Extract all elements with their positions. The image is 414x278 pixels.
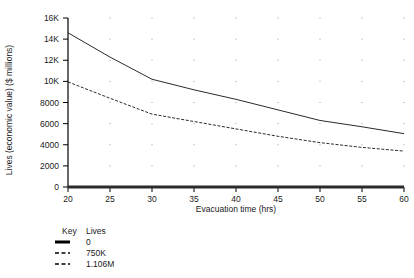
grid-dot — [194, 39, 195, 40]
grid-dot — [110, 123, 111, 124]
grid-dot — [278, 60, 279, 61]
y-tick-label: 16K — [44, 13, 59, 23]
grid-dot — [110, 39, 111, 40]
grid-dot — [362, 165, 363, 166]
x-tick-label: 30 — [147, 194, 157, 204]
x-tick-label: 20 — [63, 194, 73, 204]
grid-dot — [194, 123, 195, 124]
grid-dot — [152, 144, 153, 145]
grid-dot — [320, 144, 321, 145]
grid-dot — [194, 18, 195, 19]
grid-dot — [320, 81, 321, 82]
grid-dot — [362, 18, 363, 19]
x-tick-label: 35 — [189, 194, 199, 204]
grid-dot — [404, 18, 405, 19]
grid-dot — [362, 102, 363, 103]
grid-dot — [278, 18, 279, 19]
x-tick-label: 50 — [315, 194, 325, 204]
line-chart: Lives (economic value) ($ millions) 0200… — [0, 0, 414, 278]
grid-dot — [278, 81, 279, 82]
grid-dot — [194, 60, 195, 61]
grid-dot — [152, 18, 153, 19]
grid-dot — [320, 60, 321, 61]
grid-dot — [320, 123, 321, 124]
grid-dot — [278, 165, 279, 166]
y-tick-label: 14K — [44, 34, 59, 44]
grid-dot — [152, 81, 153, 82]
grid-dot — [236, 123, 237, 124]
grid-dot — [362, 39, 363, 40]
grid-dot — [110, 60, 111, 61]
grid-dot — [110, 18, 111, 19]
grid-dot — [362, 144, 363, 145]
grid-dot — [194, 81, 195, 82]
grid-dot — [236, 81, 237, 82]
grid-dot — [236, 39, 237, 40]
legend-header-value: Lives — [86, 226, 106, 236]
grid-dot — [278, 102, 279, 103]
x-tick-label: 25 — [105, 194, 115, 204]
grid-dot — [236, 60, 237, 61]
grid-dot — [362, 123, 363, 124]
grid-dot — [320, 18, 321, 19]
grid-dot — [278, 144, 279, 145]
grid-dot — [194, 144, 195, 145]
legend-label-1.106M: 1.106M — [86, 259, 114, 269]
grid-dot — [110, 102, 111, 103]
grid-dot — [236, 165, 237, 166]
grid-dot — [194, 165, 195, 166]
grid-dot — [236, 144, 237, 145]
x-tick-label: 45 — [273, 194, 283, 204]
grid-dot — [404, 165, 405, 166]
y-tick-label: 2000 — [40, 161, 59, 171]
chart-container: Lives (economic value) ($ millions) 0200… — [0, 0, 414, 278]
grid-dot — [362, 81, 363, 82]
x-tick-label: 60 — [399, 194, 409, 204]
chart-background — [0, 0, 414, 278]
grid-dot — [278, 123, 279, 124]
grid-dot — [320, 39, 321, 40]
grid-dot — [152, 39, 153, 40]
grid-dot — [110, 144, 111, 145]
grid-dot — [152, 165, 153, 166]
grid-dot — [152, 60, 153, 61]
grid-dot — [152, 102, 153, 103]
grid-dot — [404, 39, 405, 40]
grid-dot — [404, 144, 405, 145]
y-tick-label: 6000 — [40, 119, 59, 129]
legend-header-key: Key — [62, 226, 77, 236]
legend-label-750K: 750K — [86, 248, 106, 258]
y-tick-label: 0 — [54, 182, 59, 192]
grid-dot — [320, 102, 321, 103]
grid-dot — [404, 123, 405, 124]
grid-dot — [362, 60, 363, 61]
grid-dot — [320, 165, 321, 166]
grid-dot — [152, 123, 153, 124]
x-tick-label: 55 — [357, 194, 367, 204]
grid-dot — [236, 102, 237, 103]
grid-dot — [404, 60, 405, 61]
y-axis-title: Lives (economic value) ($ millions) — [4, 45, 14, 176]
x-tick-label: 40 — [231, 194, 241, 204]
grid-dot — [236, 18, 237, 19]
legend-label-0: 0 — [86, 237, 91, 247]
grid-dot — [404, 102, 405, 103]
grid-dot — [110, 81, 111, 82]
y-tick-label: 8000 — [40, 98, 59, 108]
grid-dot — [110, 165, 111, 166]
grid-dot — [404, 81, 405, 82]
x-axis-title: Evacuation time (hrs) — [196, 204, 276, 214]
y-tick-label: 4000 — [40, 140, 59, 150]
y-tick-label: 10K — [44, 76, 59, 86]
y-tick-label: 12K — [44, 55, 59, 65]
grid-dot — [194, 102, 195, 103]
grid-dot — [278, 39, 279, 40]
